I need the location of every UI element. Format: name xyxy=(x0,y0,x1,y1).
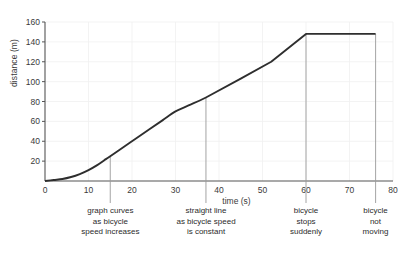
x-axis-title: time (s) xyxy=(0,196,413,206)
gridlines-group xyxy=(45,22,393,181)
y-tick-label: 60 xyxy=(31,116,41,126)
annotation-line: bicycle xyxy=(363,206,389,217)
annotation-line: suddenly xyxy=(290,227,322,238)
annotation-caption: graph curvesas bicyclespeed increases xyxy=(81,206,139,238)
annotation-line: stops xyxy=(290,217,322,228)
annotation-caption: bicyclenotmoving xyxy=(363,206,389,238)
annotation-line: straight line xyxy=(176,206,235,217)
annotation-line: is constant xyxy=(176,227,235,238)
x-tick-label: 80 xyxy=(388,185,398,195)
y-tick-label: 20 xyxy=(31,156,41,166)
y-tick-label: 160 xyxy=(26,17,40,27)
annotation-line: bicycle xyxy=(290,206,322,217)
x-axis-title-text: time (s) xyxy=(222,196,250,206)
x-tick-labels: 01020304050607080 xyxy=(43,185,398,195)
y-tick-label: 100 xyxy=(26,77,40,87)
distance-time-chart: distance (m) 20406080100120140160 010203… xyxy=(0,0,413,256)
annotation-line: as bicycle speed xyxy=(176,217,235,228)
x-tick-label: 30 xyxy=(171,185,181,195)
annotation-caption: bicyclestopssuddenly xyxy=(290,206,322,238)
data-curve xyxy=(45,34,376,181)
annotation-line: as bicycle xyxy=(81,217,139,228)
y-tick-labels: 20406080100120140160 xyxy=(26,17,45,166)
x-tick-label: 50 xyxy=(258,185,268,195)
annotation-leader-lines xyxy=(110,34,375,203)
annotation-caption: straight lineas bicycle speedis constant xyxy=(176,206,235,238)
x-tick-label: 70 xyxy=(345,185,355,195)
x-tick-label: 20 xyxy=(127,185,137,195)
annotation-line: graph curves xyxy=(81,206,139,217)
data-series-group xyxy=(45,34,376,181)
y-tick-label: 140 xyxy=(26,37,40,47)
x-tick-label: 10 xyxy=(84,185,94,195)
x-tick-label: 0 xyxy=(43,185,48,195)
annotation-line: moving xyxy=(363,227,389,238)
y-tick-label: 120 xyxy=(26,57,40,67)
x-tick-label: 40 xyxy=(214,185,224,195)
y-tick-label: 40 xyxy=(31,136,41,146)
annotation-line: speed increases xyxy=(81,227,139,238)
y-tick-label: 80 xyxy=(31,97,41,107)
annotation-line: not xyxy=(363,217,389,228)
